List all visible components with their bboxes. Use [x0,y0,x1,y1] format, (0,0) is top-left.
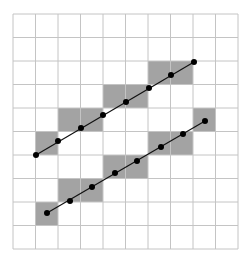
sample-point [158,144,164,150]
sample-point [123,99,129,105]
sample-point [202,118,208,124]
sample-point [112,170,118,176]
sample-point [100,112,106,118]
sample-point [44,210,50,216]
sample-point [180,131,186,137]
sample-point [78,125,84,131]
sample-point [55,138,61,144]
sample-point [134,158,140,164]
grid-diagram-svg [0,0,246,261]
sample-point [67,198,73,204]
shaded-pixel [36,132,59,156]
sample-point [33,152,39,158]
sample-point [168,72,174,78]
sample-point [191,59,197,65]
shaded-pixel [58,108,81,132]
rasterization-diagram [0,0,246,261]
sample-point [146,85,152,91]
shaded-pixel [148,61,171,85]
sample-point [89,184,95,190]
